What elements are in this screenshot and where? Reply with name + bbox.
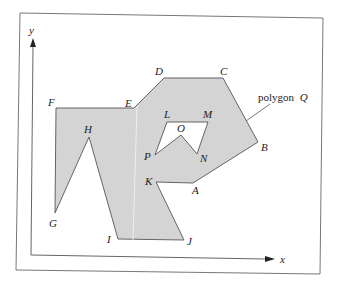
vertex-label-n: N [199, 152, 208, 164]
vertex-label-j: J [187, 235, 193, 247]
x-axis [31, 255, 266, 259]
vertex-label-m: M [202, 108, 213, 120]
vertex-label-i: I [106, 233, 112, 245]
y-axis-label: y [28, 24, 34, 36]
polygon-diagram: y x polygon Q A B C D E F G H I J K L M … [0, 0, 337, 286]
vertex-label-l: L [163, 108, 170, 120]
vertex-label-c: C [220, 65, 228, 77]
y-axis [31, 46, 33, 255]
vertex-label-a: A [191, 184, 199, 196]
polygon-label-leader [246, 104, 270, 121]
x-axis-label: x [279, 253, 285, 265]
vertex-label-f: F [47, 96, 55, 108]
vertex-label-b: B [261, 141, 268, 153]
vertex-label-k: K [144, 175, 153, 187]
vertex-label-h: H [83, 123, 93, 135]
vertex-label-p: P [143, 150, 151, 162]
vertex-label-g: G [49, 217, 57, 229]
vertex-label-o: O [177, 122, 185, 134]
polygon-label: polygon Q [258, 91, 308, 103]
x-axis-arrow-icon [265, 256, 275, 262]
polygon-q [55, 78, 258, 240]
vertex-label-e: E [124, 97, 132, 109]
vertex-label-d: D [154, 65, 163, 77]
y-axis-arrow-icon [30, 38, 36, 47]
